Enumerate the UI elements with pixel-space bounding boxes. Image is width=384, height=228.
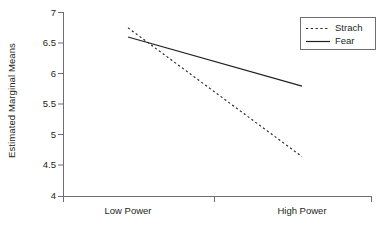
series-line-fear	[128, 37, 302, 86]
legend-item-fear: Fear	[305, 34, 370, 47]
legend-label-strach: Strach	[331, 22, 362, 33]
legend-item-strach: Strach	[305, 21, 370, 34]
chart-container: Estimated Marginal Means 7 6.5 6 5.5 5 4…	[0, 0, 384, 228]
legend: Strach Fear	[300, 17, 376, 50]
solid-line-swatch-icon	[305, 36, 331, 46]
series-line-strach	[128, 28, 302, 157]
dashed-line-swatch-icon	[305, 23, 331, 33]
legend-label-fear: Fear	[331, 35, 355, 46]
